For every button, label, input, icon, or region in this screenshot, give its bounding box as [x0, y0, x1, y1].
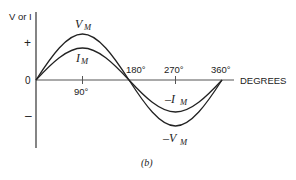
y-axis-label: V or I: [9, 11, 32, 22]
svg-text:M: M: [83, 22, 92, 32]
minus-label: –: [25, 109, 32, 123]
x-axis-label: DEGREES: [240, 75, 286, 86]
vm-label: V M: [75, 17, 92, 32]
svg-text:M: M: [179, 97, 188, 107]
svg-text:–V: –V: [162, 131, 178, 145]
svg-text:–I: –I: [164, 92, 176, 106]
tick-label-270: 270°: [164, 64, 184, 75]
figure-caption: (b): [141, 157, 153, 169]
svg-text:V: V: [75, 17, 84, 31]
plus-label: +: [24, 36, 31, 50]
sine-wave-diagram: V or I + – 0 90° 180° 270° 360° DEGREES …: [0, 0, 296, 180]
svg-text:M: M: [179, 137, 188, 147]
svg-text:M: M: [80, 56, 89, 66]
zero-label: 0: [25, 75, 31, 86]
neg-vm-label: –V M: [162, 131, 188, 147]
neg-im-label: –I M: [164, 92, 188, 107]
tick-label-360: 360°: [211, 64, 231, 75]
im-label: I M: [75, 51, 89, 66]
tick-label-90: 90°: [74, 86, 89, 97]
tick-label-180: 180°: [126, 64, 146, 75]
